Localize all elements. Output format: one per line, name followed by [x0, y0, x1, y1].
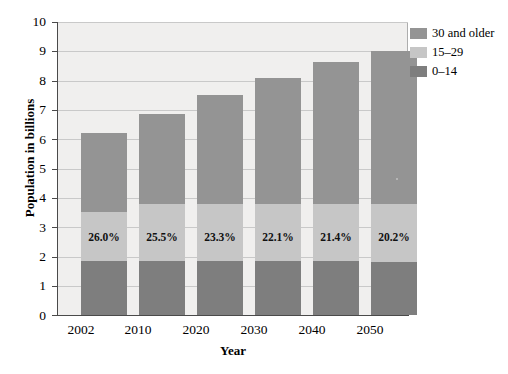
x-tick-label: 2030 [224, 322, 284, 338]
x-tick-label: 2002 [51, 322, 111, 338]
y-tick-label: 1 [0, 278, 46, 294]
x-axis-title: Year [58, 343, 408, 359]
y-tick-label: 7 [0, 102, 46, 118]
x-tick-label: 2010 [108, 322, 168, 338]
legend-item-0-14: 0–14 [410, 62, 506, 81]
x-tick-label: 2040 [282, 322, 342, 338]
chart-figure: Population in billions 10 9 8 7 6 5 4 3 … [0, 0, 508, 374]
bar-segment [81, 133, 127, 212]
y-tick-label: 8 [0, 73, 46, 89]
x-tick-label: 2050 [340, 322, 400, 338]
bar-percentage-label: 23.3% [197, 231, 243, 243]
bar-segment [255, 78, 301, 204]
bar-2040 [313, 62, 359, 315]
bar-segment [371, 262, 417, 315]
legend-swatch-icon [410, 28, 427, 39]
legend-label: 15–29 [432, 45, 463, 60]
bar-segment [197, 261, 243, 315]
legend-swatch-icon [410, 66, 427, 77]
page-speck [396, 178, 398, 180]
y-tick-label: 0 [0, 308, 46, 324]
legend-swatch-icon [410, 47, 427, 58]
y-tick-label: 9 [0, 43, 46, 59]
bar-percentage-label: 22.1% [255, 231, 301, 243]
bar-percentage-label: 26.0% [81, 231, 127, 243]
legend-label: 30 and older [432, 26, 494, 41]
y-tick-label: 2 [0, 249, 46, 265]
y-tick-label: 4 [0, 190, 46, 206]
bar-segment [313, 62, 359, 204]
bar-2020 [197, 95, 243, 315]
bar-segment [139, 261, 185, 315]
legend-label: 0–14 [432, 64, 457, 79]
gridline [58, 51, 408, 52]
legend-item-30-and-older: 30 and older [410, 24, 506, 43]
bar-2010 [139, 114, 185, 315]
bar-segment [197, 95, 243, 203]
bar-2050 [371, 51, 417, 315]
bar-percentage-label: 21.4% [313, 231, 359, 243]
y-tick-label: 3 [0, 220, 46, 236]
x-tick-label: 2020 [166, 322, 226, 338]
x-axis-line [57, 315, 409, 316]
bar-2030 [255, 78, 301, 315]
bar-segment [139, 114, 185, 203]
gridline [58, 22, 408, 23]
bar-2002 [81, 133, 127, 315]
bar-segment [81, 261, 127, 315]
legend-item-15-29: 15–29 [410, 43, 506, 62]
y-axis-ticks: 10 9 8 7 6 5 4 3 2 1 0 [0, 0, 52, 374]
y-tick-label: 6 [0, 132, 46, 148]
bar-segment [313, 261, 359, 315]
bar-segment [255, 261, 301, 315]
bar-percentage-label: 20.2% [371, 231, 417, 243]
y-tick-label: 5 [0, 161, 46, 177]
plot-area: 26.0%25.5%23.3%22.1%21.4%20.2% [58, 22, 408, 315]
chart-legend: 30 and older 15–29 0–14 [410, 24, 506, 81]
y-tick-label: 10 [0, 14, 46, 30]
bar-percentage-label: 25.5% [139, 231, 185, 243]
